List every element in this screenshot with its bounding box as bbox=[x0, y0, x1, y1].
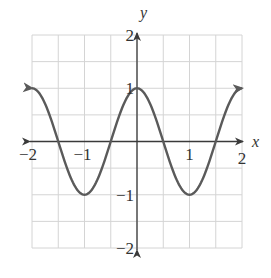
x-axis-label: x bbox=[251, 133, 259, 150]
y-axis-label: y bbox=[138, 4, 148, 22]
y-tick-label: −1 bbox=[116, 186, 134, 205]
x-tick-label: 1 bbox=[185, 145, 194, 164]
y-tick-label: 1 bbox=[126, 79, 135, 98]
y-tick-label: −2 bbox=[116, 239, 134, 258]
x-tick-label: −1 bbox=[73, 145, 91, 164]
y-tick-label: 2 bbox=[126, 26, 135, 45]
chart: −2−112 21−1−2 x y bbox=[0, 0, 271, 278]
x-tick-label: −2 bbox=[19, 145, 37, 164]
x-tick-label: 2 bbox=[238, 149, 247, 168]
